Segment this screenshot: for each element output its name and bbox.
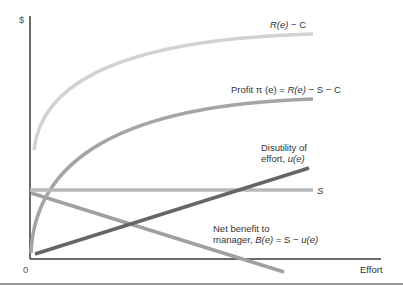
profit-curve-label: Profit π (e) = R(e) − S − C [231, 84, 341, 95]
origin-label: 0 [23, 264, 28, 275]
disutility-line1: Disutility of [261, 142, 307, 153]
chart-canvas [0, 0, 403, 293]
y-axis-label: $ [19, 14, 24, 25]
net-line2-pre: manager, [213, 234, 255, 245]
net-benefit-label: Net benefit to manager, B(e) = S − u(e) [213, 223, 318, 245]
net-line2-mid: = S − [273, 234, 301, 245]
net-line2: manager, B(e) = S − u(e) [213, 234, 318, 245]
bottom-divider [0, 283, 403, 285]
profit-rest-text: − S − C [306, 84, 341, 95]
rc-rest-text: − C [288, 19, 306, 30]
rc-curve-label: R(e) − C [270, 19, 306, 30]
disutility-line2: effort, u(e) [261, 153, 307, 164]
net-line1: Net benefit to [213, 223, 318, 234]
profit-r-text: R(e) [287, 84, 305, 95]
salary-label: S [317, 185, 323, 196]
x-axis-label: Effort [360, 264, 383, 275]
net-line2-it2: u(e) [301, 234, 318, 245]
disutility-line2-pre: effort, [261, 153, 288, 164]
profit-pre-text: Profit π (e) = [231, 84, 287, 95]
net-line2-it: B(e) [255, 234, 273, 245]
disutility-label: Disutility of effort, u(e) [261, 142, 307, 164]
disutility-line2-it: u(e) [288, 153, 305, 164]
rc-r-text: R(e) [270, 19, 288, 30]
